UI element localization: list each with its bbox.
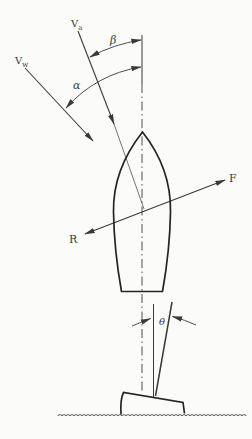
driving-force-label: F — [229, 172, 237, 185]
waterline — [58, 415, 246, 416]
force-line-R-F — [85, 180, 225, 234]
resistance-force-label: R — [69, 233, 78, 246]
heeled-hull-stern-view — [121, 393, 185, 415]
apparent-wind-label: Va — [70, 18, 82, 32]
theta-angle-label: θ — [159, 316, 165, 327]
theta-right-arrow — [173, 317, 197, 326]
alpha-angle-label: α — [73, 79, 81, 92]
diagram-canvas: Va Vw β α F R θ — [0, 0, 252, 439]
apparent-wind-vector — [78, 31, 114, 124]
theta-left-arrow — [132, 319, 151, 327]
true-wind-label: Vw — [14, 55, 28, 69]
true-wind-vector — [25, 68, 93, 141]
beta-angle-label: β — [109, 34, 116, 47]
figure-container: Va Vw β α F R θ — [0, 0, 252, 439]
